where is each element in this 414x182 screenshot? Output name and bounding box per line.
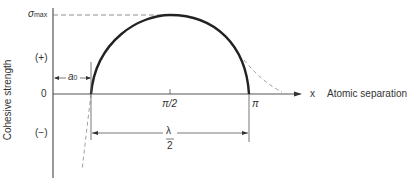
lambda-numerator: λ — [166, 125, 171, 136]
a0-arrowhead-left-icon — [54, 76, 59, 80]
a0-label: a0 — [68, 71, 77, 82]
y-axis-label: Cohesive strength — [2, 60, 13, 141]
y-tick-negative: (−) — [35, 127, 48, 138]
y-tick-zero: 0 — [41, 88, 47, 99]
x-axis-symbol: x — [310, 88, 315, 99]
sigma-subscript: max — [34, 11, 47, 18]
pi-label: π — [252, 98, 259, 109]
a0-arrowhead-right-icon — [86, 76, 91, 80]
lambda-arrowhead-right-icon — [242, 131, 248, 135]
lambda-arrowhead-left-icon — [92, 131, 98, 135]
y-tick-positive: (+) — [35, 52, 48, 63]
tail-curve — [244, 60, 282, 92]
lambda-denominator: 2 — [167, 140, 173, 151]
x-axis-arrow-icon — [294, 92, 302, 97]
sine-curve — [91, 15, 249, 94]
x-axis-label: Atomic separation — [327, 88, 407, 99]
a0-subscript: 0 — [74, 74, 78, 81]
half-pi-label: π/2 — [162, 98, 177, 109]
tangent-line — [82, 94, 91, 170]
sigma-max-label: σmax — [28, 8, 47, 19]
